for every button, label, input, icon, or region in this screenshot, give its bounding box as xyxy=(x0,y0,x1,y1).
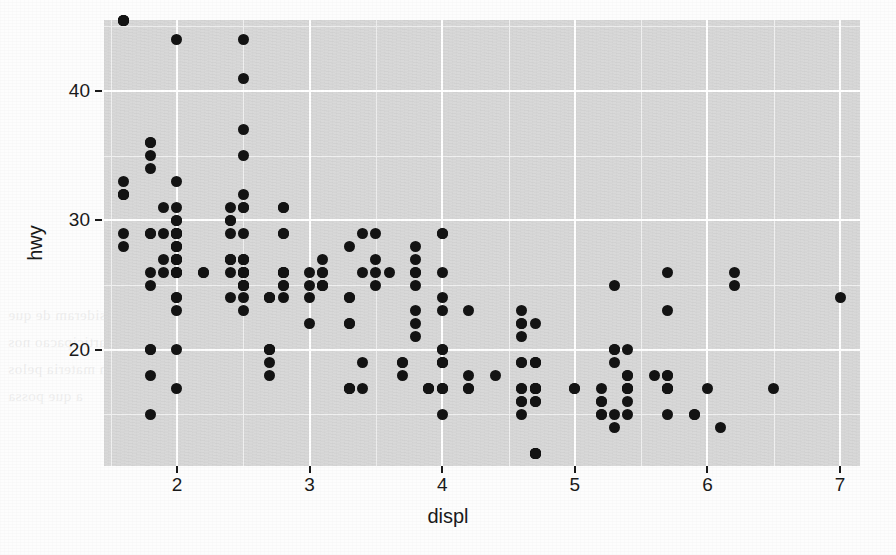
scatter-point xyxy=(437,292,448,303)
gridline-x-minor xyxy=(376,20,377,466)
scatter-point xyxy=(238,267,249,278)
scatter-point xyxy=(344,383,355,394)
scatter-point xyxy=(357,357,368,368)
scatter-point xyxy=(118,15,129,26)
gridline-x-minor xyxy=(111,20,112,466)
scatter-point xyxy=(118,176,129,187)
scatter-point xyxy=(145,409,156,420)
scatter-point xyxy=(158,228,169,239)
scatter-point xyxy=(662,383,673,394)
scatter-point xyxy=(729,267,740,278)
scatter-point xyxy=(225,228,236,239)
scatter-point xyxy=(158,202,169,213)
scatter-point xyxy=(357,228,368,239)
scatter-point xyxy=(158,267,169,278)
scatter-point xyxy=(225,267,236,278)
scatter-point xyxy=(437,267,448,278)
scatter-point xyxy=(171,176,182,187)
x-tick-mark xyxy=(309,466,311,473)
x-tick-label: 4 xyxy=(437,474,448,496)
scatter-point xyxy=(264,292,275,303)
scatter-point xyxy=(145,137,156,148)
scatter-point xyxy=(463,383,474,394)
scatter-point xyxy=(344,318,355,329)
x-tick-label: 6 xyxy=(702,474,713,496)
panel-paper-texture xyxy=(104,20,860,466)
scatter-point xyxy=(225,215,236,226)
scatter-point xyxy=(516,331,527,342)
scatter-point xyxy=(609,344,620,355)
scatter-point xyxy=(370,267,381,278)
gridline-x-major xyxy=(441,20,443,466)
scatter-point xyxy=(662,267,673,278)
scatter-point xyxy=(622,409,633,420)
scatter-point xyxy=(530,448,541,459)
x-tick-label: 7 xyxy=(835,474,846,496)
scatter-point xyxy=(238,150,249,161)
scatter-point xyxy=(198,267,209,278)
scatter-point xyxy=(304,267,315,278)
scatter-point xyxy=(397,370,408,381)
scatter-point xyxy=(384,267,395,278)
scatter-point xyxy=(171,202,182,213)
scatter-point xyxy=(370,228,381,239)
scatter-point xyxy=(118,189,129,200)
x-tick-label: 2 xyxy=(172,474,183,496)
scatter-point xyxy=(370,280,381,291)
scatter-point xyxy=(171,228,182,239)
scatter-point xyxy=(171,254,182,265)
scatter-point xyxy=(516,318,527,329)
y-axis-label: hwy xyxy=(24,225,47,261)
gridline-x-major xyxy=(839,20,841,466)
scatter-point xyxy=(357,383,368,394)
y-tick-label: 30 xyxy=(48,209,90,231)
scatter-point xyxy=(530,357,541,368)
gridline-y-major xyxy=(104,219,860,221)
gridline-x-major xyxy=(309,20,311,466)
x-axis-label: displ xyxy=(0,505,896,528)
scatter-point xyxy=(622,344,633,355)
scatter-point xyxy=(238,202,249,213)
scatter-point xyxy=(145,228,156,239)
scatter-point xyxy=(225,254,236,265)
scatter-point xyxy=(304,318,315,329)
scatter-point xyxy=(622,396,633,407)
y-tick-mark xyxy=(95,349,102,351)
scatter-point xyxy=(622,383,633,394)
scatter-point xyxy=(238,189,249,200)
scatter-point xyxy=(596,409,607,420)
gridline-y-minor xyxy=(104,26,860,27)
y-tick-label: 20 xyxy=(48,339,90,361)
scatter-point xyxy=(530,383,541,394)
scatter-point xyxy=(171,215,182,226)
scatter-point xyxy=(344,292,355,303)
scatter-point xyxy=(118,228,129,239)
scatter-point xyxy=(689,409,700,420)
scatter-point xyxy=(171,292,182,303)
scatter-point xyxy=(145,267,156,278)
scatter-point xyxy=(171,305,182,316)
scatter-point xyxy=(317,254,328,265)
scatter-point xyxy=(410,241,421,252)
scatter-point xyxy=(264,344,275,355)
gridline-y-major xyxy=(104,90,860,92)
chart-page: esporte e culturasociedade civilcomunica… xyxy=(0,0,896,555)
scatter-point xyxy=(317,267,328,278)
scatter-point xyxy=(317,280,328,291)
scatter-point xyxy=(238,34,249,45)
scatter-point xyxy=(238,228,249,239)
x-tick-mark xyxy=(839,466,841,473)
scatter-point xyxy=(437,228,448,239)
x-tick-label: 3 xyxy=(304,474,315,496)
scatter-point xyxy=(225,202,236,213)
scatter-point xyxy=(649,370,660,381)
scatter-point xyxy=(715,422,726,433)
y-tick-mark xyxy=(95,90,102,92)
scatter-point xyxy=(238,73,249,84)
scatter-point xyxy=(145,280,156,291)
scatter-point xyxy=(225,292,236,303)
scatter-point xyxy=(530,318,541,329)
gridline-x-minor xyxy=(509,20,510,466)
scatter-point xyxy=(344,241,355,252)
gridline-x-minor xyxy=(243,20,244,466)
